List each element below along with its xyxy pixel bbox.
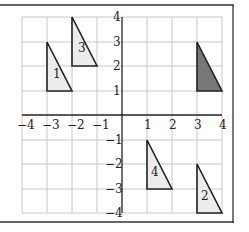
y-tick-label: −1 (105, 133, 123, 147)
x-tick-label: −3 (42, 118, 60, 132)
triangle-label: 2 (201, 189, 209, 203)
triangle-label: 1 (53, 67, 61, 81)
x-tick-label: −4 (17, 118, 35, 132)
x-tick-label: −2 (67, 118, 85, 132)
x-tick-label: 1 (144, 118, 152, 132)
triangle-label: 4 (151, 165, 159, 179)
y-tick-label: 3 (113, 35, 121, 49)
x-tick-label: 4 (219, 118, 227, 132)
y-tick-label: −4 (105, 206, 123, 220)
x-tick-label: 3 (194, 118, 202, 132)
y-tick-label: 1 (113, 84, 121, 98)
y-tick-label: 2 (113, 59, 121, 73)
triangle-label: 3 (78, 41, 86, 55)
y-tick-label: −2 (105, 157, 123, 171)
y-tick-label: 4 (113, 10, 121, 24)
x-tick-label: 2 (169, 118, 177, 132)
y-tick-label: −3 (105, 182, 123, 196)
coordinate-grid-diagram: −4 −3 −2 −1 1 2 3 4 4 3 2 1 −1 −2 −3 −4 … (0, 0, 249, 232)
x-tick-label: −1 (92, 118, 110, 132)
